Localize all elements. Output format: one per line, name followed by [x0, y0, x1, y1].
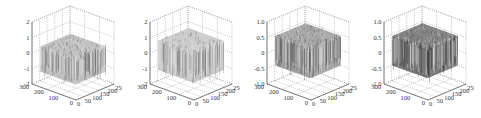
y-tick-label: 300: [371, 83, 381, 90]
z-tick-label: 2: [144, 18, 147, 25]
y-tick-label: 300: [254, 83, 264, 90]
z-tick-label: 1: [26, 34, 29, 41]
surface-plot-svg: 1.00.50-0.5-1.00100200300050100150200250: [362, 0, 474, 118]
y-tick-label: 200: [34, 88, 44, 95]
z-tick-label: -1: [142, 65, 147, 72]
y-tick-label: 100: [49, 94, 59, 101]
z-tick-label: -0.5: [371, 65, 381, 72]
x-tick-label: 0: [195, 100, 198, 107]
y-tick-label: 100: [284, 94, 294, 101]
z-tick-label: 0: [261, 49, 264, 56]
surface-plot-svg: 210-1-20100200300050100150200250: [128, 0, 240, 118]
x-tick-label: 50: [437, 97, 444, 104]
surface-plot-svg: 210-1-20100200300050100150200250: [10, 0, 122, 118]
z-tick-label: 1.0: [373, 18, 381, 25]
surface-plot-4: 1.00.50-0.5-1.00100200300050100150200250: [362, 0, 474, 118]
surface-mesh: [158, 27, 224, 85]
surface-plot-svg: 1.00.50-0.5-1.00100200300050100150200250: [245, 0, 357, 118]
y-tick-label: 200: [152, 88, 162, 95]
surface-plot-2: 210-1-20100200300050100150200250: [128, 0, 240, 118]
surface-mesh: [40, 34, 106, 89]
surface-plot-3: 1.00.50-0.5-1.00100200300050100150200250: [245, 0, 357, 118]
y-tick-label: 0: [422, 99, 425, 106]
y-tick-label: 300: [19, 83, 29, 90]
z-tick-label: 0.5: [256, 34, 264, 41]
y-tick-label: 200: [386, 88, 396, 95]
x-tick-label: 0: [429, 100, 432, 107]
y-tick-label: 200: [269, 88, 279, 95]
z-tick-label: -0.5: [254, 65, 264, 72]
x-tick-label: 250: [467, 84, 474, 91]
z-tick-label: -1: [24, 65, 29, 72]
surface-plot-1: 210-1-20100200300050100150200250: [10, 0, 122, 118]
x-tick-label: 50: [320, 97, 327, 104]
y-tick-label: 0: [188, 99, 191, 106]
z-tick-label: 1: [144, 34, 147, 41]
y-tick-label: 0: [305, 99, 308, 106]
y-tick-label: 100: [167, 94, 177, 101]
surface-mesh: [275, 23, 341, 80]
x-tick-label: 50: [203, 97, 210, 104]
z-tick-label: 1.0: [256, 18, 264, 25]
z-tick-label: 0.5: [373, 34, 381, 41]
z-tick-label: 0: [26, 49, 29, 56]
z-tick-label: 0: [378, 49, 381, 56]
x-tick-label: 250: [350, 84, 357, 91]
x-tick-label: 50: [85, 97, 92, 104]
x-tick-label: 250: [233, 84, 240, 91]
y-tick-label: 100: [401, 94, 411, 101]
z-tick-label: 0: [144, 49, 147, 56]
x-tick-label: 0: [77, 100, 80, 107]
y-tick-label: 0: [70, 99, 73, 106]
y-tick-label: 300: [137, 83, 147, 90]
z-tick-label: 2: [26, 18, 29, 25]
x-tick-label: 0: [312, 100, 315, 107]
x-tick-label: 250: [115, 84, 122, 91]
surface-mesh: [392, 22, 458, 82]
